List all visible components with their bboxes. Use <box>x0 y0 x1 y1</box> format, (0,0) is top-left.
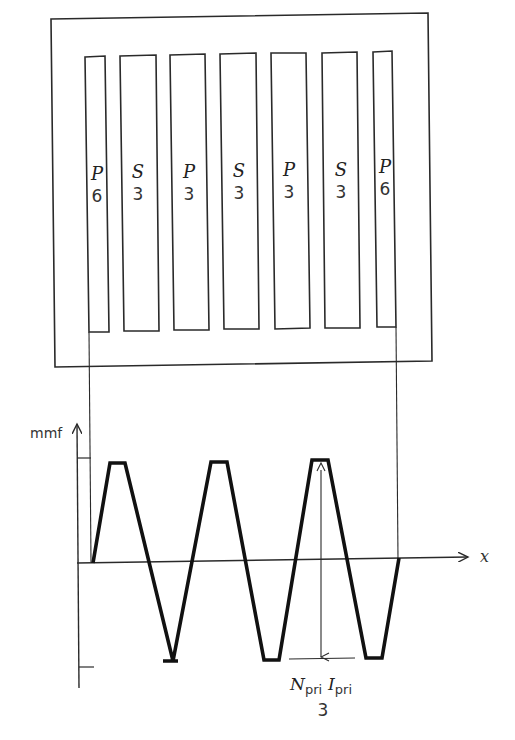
amplitude-denominator: 3 <box>318 700 329 720</box>
y-axis-label: mmf <box>30 425 63 441</box>
slot-label-turns: 6 <box>380 179 391 199</box>
slot-label-letter: S <box>335 159 347 180</box>
slot-label-letter: P <box>282 159 296 180</box>
slot-label-turns: 3 <box>184 184 195 204</box>
amplitude-arrow-head-top <box>317 463 325 471</box>
amplitude-label: NpriIpri 3 <box>289 674 352 720</box>
x-axis-label: x <box>480 547 489 566</box>
slot-label-letter: P <box>182 161 196 182</box>
slot-label-letter: P <box>378 156 392 177</box>
x-axis <box>77 557 468 563</box>
slot-label-letter: S <box>132 161 144 182</box>
slot-label-turns: 6 <box>92 186 103 206</box>
slot-label-turns: 3 <box>284 182 295 202</box>
mmf-waveform <box>93 460 399 661</box>
slot-label-turns: 3 <box>234 183 245 203</box>
slot-label-turns: 3 <box>336 182 347 202</box>
slot-labels: P 6 S 3 P 3 S 3 P 3 S 3 P 6 <box>90 156 392 206</box>
slot-label-letter: P <box>90 163 104 184</box>
interleaved-winding-diagram: P 6 S 3 P 3 S 3 P 3 S 3 P 6 mmf x NpriIp… <box>0 0 515 740</box>
y-axis <box>77 424 79 688</box>
amplitude-numerator: NpriIpri <box>289 674 352 697</box>
slot-label-turns: 3 <box>133 184 144 204</box>
amplitude-baseline <box>289 658 355 659</box>
slot-label-letter: S <box>233 160 245 181</box>
